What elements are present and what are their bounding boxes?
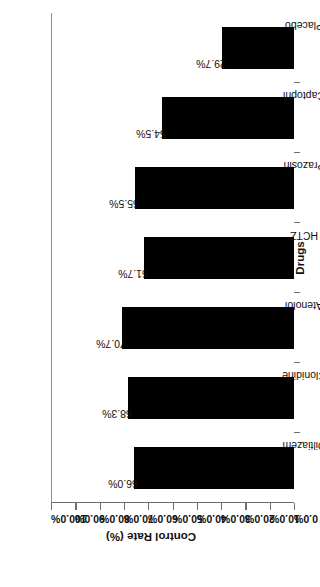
bar-value-label: 65.5% — [109, 198, 138, 210]
bar-value-label: 54.5% — [136, 128, 165, 140]
bar-value-label: 70.7% — [97, 338, 126, 350]
bar-captopril[interactable]: 54.5% — [51, 97, 294, 139]
value-tick-mark — [294, 503, 295, 510]
value-tick-mark — [221, 503, 222, 510]
value-tick-mark — [270, 503, 271, 510]
bar-atenolol[interactable]: 70.7% — [51, 307, 294, 349]
bar-placebo[interactable]: 29.7% — [51, 27, 294, 69]
value-tick-mark — [124, 503, 125, 510]
bar-diltiazem[interactable]: 66.0% — [51, 447, 294, 489]
value-tick-mark — [100, 503, 101, 510]
bar-rect — [144, 237, 294, 279]
value-tick-mark — [148, 503, 149, 510]
bar-value-label: 68.3% — [102, 408, 131, 420]
bars-layer: 66.0%68.3%70.7%61.7%65.5%54.5%29.7% — [51, 13, 294, 503]
bar-rect — [135, 167, 294, 209]
bar-rect — [222, 27, 294, 69]
bar-value-label: 61.7% — [118, 268, 147, 280]
bar-rect — [134, 447, 294, 489]
bar-value-label: 29.7% — [196, 58, 225, 70]
value-tick-mark — [173, 503, 174, 510]
bar-rect — [128, 377, 294, 419]
category-axis-title: Drugs — [294, 13, 306, 503]
value-tick-mark — [51, 503, 52, 510]
bar-chart-figure: 0.0%10.0%20.0%30.0%40.0%50.0%60.0%70.0%8… — [0, 0, 318, 587]
bar-clonidine[interactable]: 68.3% — [51, 377, 294, 419]
bar-rect — [122, 307, 294, 349]
value-tick-mark — [197, 503, 198, 510]
value-tick-mark — [245, 503, 246, 510]
value-tick-label: 100.0% — [51, 513, 87, 525]
value-tick-mark — [75, 503, 76, 510]
bar-rect — [162, 97, 294, 139]
bar-value-label: 66.0% — [108, 478, 137, 490]
value-axis-title: Control Rate (%) — [41, 531, 261, 543]
value-axis: 0.0%10.0%20.0%30.0%40.0%50.0%60.0%70.0%8… — [51, 503, 294, 587]
rotated-figure-wrapper: 0.0%10.0%20.0%30.0%40.0%50.0%60.0%70.0%8… — [0, 0, 318, 587]
bar-hctz[interactable]: 61.7% — [51, 237, 294, 279]
bar-prazosin[interactable]: 65.5% — [51, 167, 294, 209]
